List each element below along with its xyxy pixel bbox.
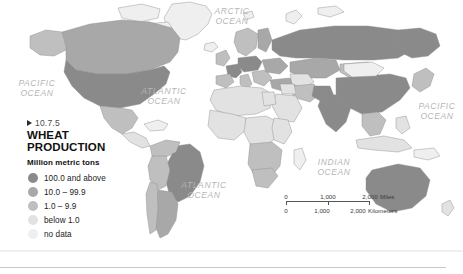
scale-km-tick-2: 2,000 bbox=[350, 207, 365, 214]
legend-swatch-below-1 bbox=[28, 215, 38, 225]
scale-miles-unit: Miles bbox=[380, 193, 394, 200]
legend-swatch-1-to-9 bbox=[28, 201, 38, 211]
wheat-production-map-figure: .cty{stroke:#909090;stroke-width:.45;str… bbox=[0, 0, 463, 274]
antarctica-edge bbox=[0, 250, 463, 252]
bottom-divider bbox=[0, 267, 446, 268]
scale-miles-tick-1: 1,000 bbox=[320, 193, 335, 200]
figure-code: 10.7.5 bbox=[35, 118, 60, 128]
scale-miles-labels: 0 1,000 2,000 Miles bbox=[286, 193, 401, 201]
scale-tick-mark-2 bbox=[369, 201, 370, 205]
legend-swatch-no-data bbox=[28, 229, 38, 239]
legend-label-100-plus: 100.0 and above bbox=[44, 174, 106, 183]
country-iraq-syria bbox=[280, 84, 296, 94]
scale-bar-line bbox=[286, 201, 370, 206]
map-title-line2: PRODUCTION bbox=[27, 141, 149, 153]
legend-label-10-to-99: 10.0 – 99.9 bbox=[44, 188, 86, 197]
map-title-line1: WHEAT bbox=[27, 129, 149, 141]
scale-miles-tick-2: 2,000 bbox=[362, 193, 377, 200]
legend-label-below-1: below 1.0 bbox=[44, 216, 80, 225]
scale-km-tick-1: 1,000 bbox=[314, 207, 329, 214]
legend-item-10-to-99: 10.0 – 99.9 bbox=[27, 185, 149, 199]
figure-code-row: 10.7.5 bbox=[27, 118, 149, 128]
scale-kilometers-unit: Kilometers bbox=[368, 207, 397, 214]
legend-item-100-plus: 100.0 and above bbox=[27, 171, 149, 185]
triangle-right-icon bbox=[27, 120, 32, 126]
legend-swatch-100-plus bbox=[28, 173, 38, 183]
scale-tick-mark-0 bbox=[286, 201, 287, 205]
map-legend: 10.7.5 WHEAT PRODUCTION Million metric t… bbox=[27, 118, 149, 241]
legend-units-label: Million metric tons bbox=[27, 158, 149, 167]
legend-item-no-data: no data bbox=[27, 227, 149, 241]
legend-label-1-to-9: 1.0 – 9.9 bbox=[44, 202, 76, 211]
country-egypt bbox=[262, 92, 276, 106]
legend-swatch-10-to-99 bbox=[28, 187, 38, 197]
legend-item-1-to-9: 1.0 – 9.9 bbox=[27, 199, 149, 213]
legend-label-no-data: no data bbox=[44, 230, 72, 239]
country-germany-poland bbox=[238, 56, 262, 72]
map-title: WHEAT PRODUCTION bbox=[27, 129, 149, 153]
scale-miles-tick-0: 0 bbox=[284, 193, 287, 200]
scale-kilometers-labels: 0 1,000 2,000 Kilometers bbox=[286, 207, 401, 215]
map-scale-bar: 0 1,000 2,000 Miles 0 1,000 2,000 Kilome… bbox=[286, 193, 401, 215]
scale-km-tick-0: 0 bbox=[284, 207, 287, 214]
scale-tick-mark-1 bbox=[328, 201, 329, 205]
legend-item-below-1: below 1.0 bbox=[27, 213, 149, 227]
